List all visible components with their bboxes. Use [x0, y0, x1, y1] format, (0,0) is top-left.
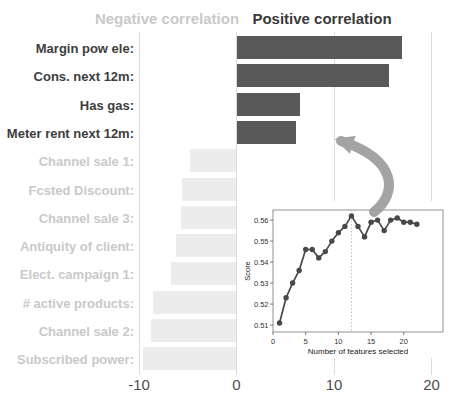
- inset-y-tick-label: 0.54: [254, 258, 269, 267]
- feature-label: Elect. campaign 1:: [0, 267, 134, 282]
- inset-y-tick-label: 0.56: [254, 216, 269, 225]
- feature-bar: [151, 319, 237, 342]
- inset-chart: 051015200.510.520.530.540.550.56ScoreNum…: [237, 201, 449, 358]
- feature-row: Channel sale 1:: [0, 147, 451, 175]
- inset-data-point: [336, 230, 341, 235]
- feature-label: Antiquity of client:: [0, 239, 134, 254]
- x-axis-tick-label: 0: [232, 376, 240, 393]
- feature-bar: [182, 178, 237, 201]
- feature-label: Margin pow ele:: [0, 41, 134, 56]
- feature-bar: [153, 291, 237, 314]
- x-axis-tick-label: -10: [128, 376, 150, 393]
- inset-data-point: [303, 247, 308, 252]
- feature-bar: [181, 206, 237, 229]
- inset-y-tick-label: 0.52: [254, 300, 269, 309]
- negative-correlation-title: Negative correlation: [95, 10, 239, 27]
- inset-x-tick-label: 0: [271, 337, 275, 346]
- feature-label: Channel sale 2:: [0, 324, 134, 339]
- inset-data-point: [349, 213, 354, 218]
- inset-data-point: [283, 295, 288, 300]
- inset-y-axis-label: Score: [243, 261, 252, 281]
- inset-data-point: [381, 228, 386, 233]
- inset-svg: 051015200.510.520.530.540.550.56ScoreNum…: [237, 201, 449, 358]
- inset-data-point: [296, 268, 301, 273]
- inset-y-tick-label: 0.55: [254, 237, 269, 246]
- feature-bar: [143, 347, 237, 370]
- x-axis-tick-label: 10: [326, 376, 343, 393]
- inset-data-point: [395, 215, 400, 220]
- feature-label: Subscribed power:: [0, 352, 134, 367]
- inset-data-point: [355, 224, 360, 229]
- inset-data-point: [408, 219, 413, 224]
- feature-bar: [171, 262, 236, 285]
- inset-data-point: [368, 219, 373, 224]
- feature-label: # active products:: [0, 295, 134, 310]
- inset-x-axis-label: Number of features selected: [308, 347, 409, 356]
- inset-data-point: [316, 255, 321, 260]
- inset-x-tick-label: 20: [400, 337, 408, 346]
- feature-label: Fcsted Discount:: [0, 182, 134, 197]
- feature-row: Fcsted Discount:: [0, 176, 451, 204]
- inset-y-tick-label: 0.51: [254, 321, 269, 330]
- feature-label: Channel sale 3:: [0, 210, 134, 225]
- feature-row: Has gas:: [0, 91, 451, 119]
- feature-bar: [237, 121, 296, 144]
- feature-label: Has gas:: [0, 97, 134, 112]
- inset-data-point: [401, 219, 406, 224]
- inset-data-point: [277, 320, 282, 325]
- feature-row: Margin pow ele:: [0, 34, 451, 62]
- feature-label: Meter rent next 12m:: [0, 125, 134, 140]
- inset-x-tick-label: 10: [334, 337, 342, 346]
- feature-row: Cons. next 12m:: [0, 62, 451, 90]
- inset-y-tick-label: 0.53: [254, 279, 269, 288]
- inset-x-tick-label: 5: [304, 337, 308, 346]
- inset-data-point: [388, 217, 393, 222]
- feature-bar: [190, 149, 237, 172]
- feature-bar: [237, 64, 389, 87]
- feature-bar: [176, 234, 236, 257]
- inset-data-point: [310, 247, 315, 252]
- feature-label: Cons. next 12m:: [0, 69, 134, 84]
- inset-data-point: [323, 249, 328, 254]
- inset-data-point: [375, 217, 380, 222]
- feature-bar: [237, 93, 300, 116]
- feature-bar: [237, 36, 403, 59]
- inset-x-tick-label: 15: [367, 337, 375, 346]
- positive-correlation-title: Positive correlation: [252, 10, 391, 27]
- inset-data-point: [362, 234, 367, 239]
- figure-root: Negative correlation Positive correlatio…: [0, 0, 451, 410]
- x-axis-tick-label: 20: [423, 376, 440, 393]
- inset-data-point: [290, 280, 295, 285]
- inset-data-point: [414, 222, 419, 227]
- feature-row: Meter rent next 12m:: [0, 119, 451, 147]
- inset-data-point: [329, 238, 334, 243]
- feature-label: Channel sale 1:: [0, 154, 134, 169]
- inset-data-point: [342, 224, 347, 229]
